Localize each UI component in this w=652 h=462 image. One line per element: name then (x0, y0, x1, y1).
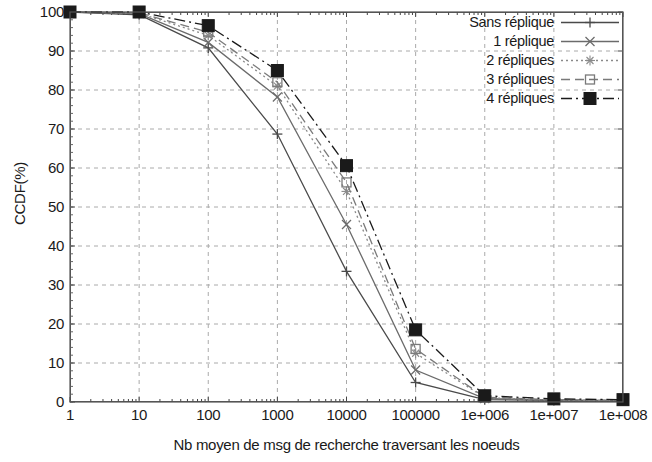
legend-label: 3 répliques (486, 71, 554, 88)
legend-symbol-star-icon (559, 52, 621, 69)
legend-item: 4 répliques (425, 90, 621, 107)
legend-symbol-square-open-icon (559, 71, 621, 88)
marker-square-filled (202, 20, 214, 32)
legend-label: 2 répliques (486, 52, 554, 69)
legend-symbol-cross-icon (559, 33, 621, 50)
legend-label: 1 réplique (493, 33, 554, 50)
legend-item: 2 répliques (425, 52, 621, 69)
legend-item: 1 réplique (425, 33, 621, 50)
marker-square-filled (548, 393, 560, 405)
marker-square-filled (341, 160, 353, 172)
legend-item: 3 répliques (425, 71, 621, 88)
marker-square-filled (271, 65, 283, 77)
marker-square-filled (479, 390, 491, 402)
marker-square-filled (410, 324, 422, 336)
chart-legend: Sans réplique1 réplique2 répliques3 répl… (425, 14, 621, 109)
legend-symbol-plus-icon (559, 14, 621, 31)
marker-square-filled (584, 93, 596, 105)
legend-label: Sans réplique (469, 14, 554, 31)
legend-item: Sans réplique (425, 14, 621, 31)
legend-symbol-square-filled-icon (559, 90, 621, 107)
legend-label: 4 répliques (486, 90, 554, 107)
